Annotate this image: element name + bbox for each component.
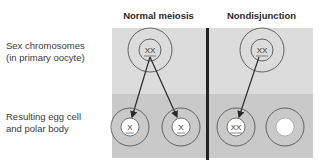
chromosome-label: XX <box>231 123 242 132</box>
chromosome-label: XX <box>145 46 156 55</box>
meiosis-diagram: XX X X XX XX <box>0 0 319 166</box>
chromosome-label: XX <box>257 46 268 55</box>
column-divider <box>206 28 209 160</box>
chromosome-label: X <box>127 123 133 132</box>
chromosome-label: X <box>178 123 184 132</box>
